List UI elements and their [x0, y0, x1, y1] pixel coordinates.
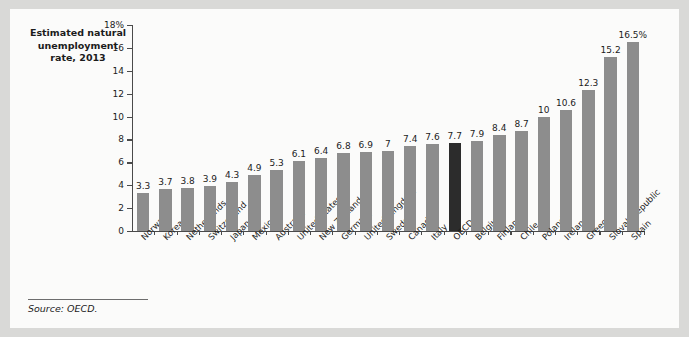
bar	[604, 57, 616, 231]
bar-value-label: 15.2	[601, 45, 621, 55]
bar	[337, 153, 349, 231]
bar-value-label: 3.3	[136, 181, 150, 191]
y-axis-label: 14	[113, 66, 124, 76]
bar-group: 3.8	[181, 25, 193, 231]
bar-value-label: 7	[385, 139, 391, 149]
bar-value-label: 4.9	[247, 163, 261, 173]
bar-group: 15.2	[604, 25, 616, 231]
y-axis-tick	[127, 231, 132, 232]
bar	[493, 135, 505, 231]
bar	[449, 143, 461, 231]
bar-value-label: 7.7	[448, 131, 462, 141]
bar-group: 6.9	[360, 25, 372, 231]
bar-group: 16.5%	[627, 25, 639, 231]
bar	[226, 182, 238, 231]
bar-group: 7.4	[404, 25, 416, 231]
y-axis-label: 8	[118, 134, 124, 144]
bar-group: 4.3	[226, 25, 238, 231]
bar	[248, 175, 260, 231]
figure-panel: Estimated natural unemployment rate, 201…	[10, 9, 679, 328]
bar-group: 4.9	[248, 25, 260, 231]
bar-group: 7	[382, 25, 394, 231]
bar-value-label: 4.3	[225, 170, 239, 180]
bar-value-label: 12.3	[578, 78, 598, 88]
bar	[560, 110, 572, 231]
bar	[426, 144, 438, 231]
bar	[293, 161, 305, 231]
y-axis-label: 6	[118, 157, 124, 167]
bar-value-label: 6.8	[336, 141, 350, 151]
bar-value-label: 10	[538, 105, 549, 115]
y-axis-label: 0	[118, 226, 124, 236]
bar-group: 12.3	[582, 25, 594, 231]
bar	[382, 151, 394, 231]
bar-value-label: 7.9	[470, 129, 484, 139]
bar-value-label: 6.1	[292, 149, 306, 159]
bar-value-label: 10.6	[556, 98, 576, 108]
bar	[515, 131, 527, 231]
bar	[360, 152, 372, 231]
bar	[404, 146, 416, 231]
bar-value-label: 6.4	[314, 146, 328, 156]
bar-value-label: 8.7	[514, 119, 528, 129]
bar-group: 3.9	[204, 25, 216, 231]
bar-group: 8.7	[515, 25, 527, 231]
bar-group: 7.7	[449, 25, 461, 231]
bar	[627, 42, 639, 231]
bar-group: 3.7	[159, 25, 171, 231]
bar-group: 8.4	[493, 25, 505, 231]
source-rule	[28, 299, 148, 300]
bar	[270, 170, 282, 231]
bar-value-label: 5.3	[270, 158, 284, 168]
bar-group: 7.6	[426, 25, 438, 231]
bar-value-label: 3.7	[158, 177, 172, 187]
bar-value-label: 6.9	[359, 140, 373, 150]
bar	[181, 188, 193, 231]
y-axis-label: 16	[113, 43, 124, 53]
bar-group: 7.9	[471, 25, 483, 231]
bar-value-label: 16.5%	[619, 30, 648, 40]
bar	[538, 117, 550, 231]
bar-group: 3.3	[137, 25, 149, 231]
y-axis-label: 4	[118, 180, 124, 190]
bar-value-label: 3.9	[203, 174, 217, 184]
bar-group: 6.1	[293, 25, 305, 231]
bar	[204, 186, 216, 231]
y-axis-label: 12	[113, 89, 124, 99]
bar	[315, 158, 327, 231]
source-note: Source: OECD.	[28, 303, 98, 314]
bar-value-label: 7.6	[425, 132, 439, 142]
y-axis-label: 10	[113, 112, 124, 122]
bar	[582, 90, 594, 231]
bar	[471, 141, 483, 231]
bar-group: 5.3	[270, 25, 282, 231]
bar-value-label: 3.8	[180, 176, 194, 186]
plot-area: 024681012141618% 3.3Norway3.7Korea3.8Net…	[132, 25, 644, 232]
bar-group: 6.8	[337, 25, 349, 231]
bar-group: 10.6	[560, 25, 572, 231]
bar-value-label: 7.4	[403, 134, 417, 144]
y-axis-label: 2	[118, 203, 124, 213]
bar-value-label: 8.4	[492, 123, 506, 133]
bar-group: 10	[538, 25, 550, 231]
bar-series: 3.3Norway3.7Korea3.8Netherlands3.9Switze…	[132, 25, 644, 231]
y-axis-label: 18%	[104, 20, 124, 30]
bar-group: 6.4	[315, 25, 327, 231]
